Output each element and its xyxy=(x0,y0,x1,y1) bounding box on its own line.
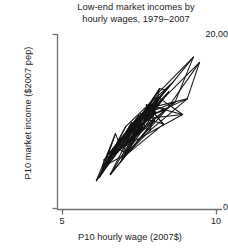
data-series-lines xyxy=(96,57,199,181)
plot-area xyxy=(0,0,228,249)
data-line xyxy=(175,57,193,102)
chart-figure: Low-end market incomes by hourly wages, … xyxy=(0,0,228,249)
